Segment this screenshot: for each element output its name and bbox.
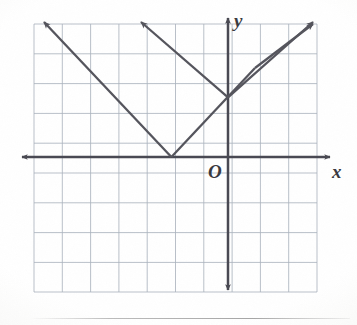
- figure-page: O x y: [0, 0, 357, 325]
- page-bottom-rule: [30, 318, 350, 319]
- absolute-value-graph-1-continuation: [255, 24, 313, 68]
- y-axis-label: y: [232, 10, 243, 31]
- origin-label: O: [208, 161, 222, 182]
- graph2-left-branch: [141, 22, 228, 97]
- absolute-value-graph-1: [44, 22, 255, 157]
- x-axis-label: x: [331, 161, 342, 182]
- coordinate-axes: [22, 18, 330, 290]
- coordinate-plane-figure: O x y: [0, 0, 357, 325]
- graph1-right-branch: [171, 68, 255, 157]
- graph1-left-branch: [44, 22, 171, 157]
